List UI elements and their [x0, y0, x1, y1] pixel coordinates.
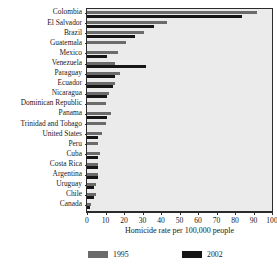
bar-2002 — [87, 156, 98, 159]
x-axis-title: Homicide rate per 100,000 people — [86, 226, 273, 235]
bar-group — [87, 49, 272, 59]
legend-label-1995: 1995 — [113, 250, 129, 259]
x-tick-mark — [180, 212, 181, 215]
plot-area — [86, 8, 273, 212]
bar-group — [87, 171, 272, 181]
bar-2002 — [87, 85, 113, 88]
category-label: Guatemala — [50, 39, 82, 47]
x-tick-mark — [217, 212, 218, 215]
x-tick-label: 100 — [262, 216, 277, 225]
x-tick-label: 20 — [114, 216, 134, 225]
bar-1995 — [87, 62, 115, 65]
category-label: Colombia — [53, 8, 82, 16]
bar-1995 — [87, 112, 111, 115]
bar-1995 — [87, 102, 106, 105]
x-tick-mark — [254, 212, 255, 215]
x-tick-label: 70 — [207, 216, 227, 225]
bar-1995 — [87, 163, 98, 166]
bar-group — [87, 29, 272, 39]
category-label: Venezuela — [52, 59, 82, 67]
bar-2002 — [87, 176, 98, 179]
bar-2002 — [87, 35, 135, 38]
x-tick-mark — [124, 212, 125, 215]
homicide-rate-bar-chart: ColombiaEl SalvadorBrazilGuatemalaMexico… — [0, 0, 277, 274]
chart-legend: 1995 2002 — [0, 250, 277, 266]
x-tick-label: 0 — [77, 216, 97, 225]
x-tick-mark — [272, 212, 273, 215]
bar-1995 — [87, 11, 257, 14]
category-label: Uruguay — [56, 180, 82, 188]
x-tick-label: 50 — [170, 216, 190, 225]
bar-1995 — [87, 183, 96, 186]
bar-1995 — [87, 82, 115, 85]
x-tick-mark — [198, 212, 199, 215]
bar-1995 — [87, 142, 98, 145]
bar-2002 — [87, 75, 115, 78]
category-label: Panama — [59, 109, 82, 117]
bar-group — [87, 110, 272, 120]
category-label: Cuba — [66, 150, 82, 158]
bar-1995 — [87, 72, 120, 75]
x-tick-mark — [143, 212, 144, 215]
x-tick-label: 60 — [188, 216, 208, 225]
legend-label-2002: 2002 — [207, 250, 223, 259]
category-label: Paraguay — [55, 69, 83, 77]
bar-group — [87, 161, 272, 171]
bar-group — [87, 100, 272, 110]
bar-group — [87, 70, 272, 80]
category-label: Dominican Republic — [21, 99, 82, 107]
bar-group — [87, 80, 272, 90]
category-label: Mexico — [59, 49, 82, 57]
x-tick-label: 30 — [133, 216, 153, 225]
bar-1995 — [87, 152, 100, 155]
bar-group — [87, 191, 272, 201]
category-label: Chile — [66, 190, 82, 198]
bar-1995 — [87, 203, 91, 206]
legend-swatch-2002 — [182, 251, 202, 258]
x-tick-mark — [106, 212, 107, 215]
bar-2002 — [87, 186, 94, 189]
category-label: Peru — [68, 140, 82, 148]
bar-2002 — [87, 116, 107, 119]
bar-1995 — [87, 31, 144, 34]
category-label: Costa Rica — [50, 160, 82, 168]
category-axis-labels: ColombiaEl SalvadorBrazilGuatemalaMexico… — [0, 8, 84, 212]
bar-2002 — [87, 95, 107, 98]
category-label: United States — [42, 130, 82, 138]
x-tick-mark — [87, 212, 88, 215]
bar-1995 — [87, 92, 109, 95]
bar-1995 — [87, 51, 118, 54]
category-label: Trinidad and Tobago — [21, 120, 82, 128]
bar-group — [87, 60, 272, 70]
legend-swatch-1995 — [88, 251, 108, 258]
bar-group — [87, 150, 272, 160]
bar-group — [87, 39, 272, 49]
bar-2002 — [87, 136, 98, 139]
bar-group — [87, 120, 272, 130]
bar-1995 — [87, 173, 98, 176]
bar-2002 — [87, 55, 107, 58]
bar-1995 — [87, 132, 102, 135]
bar-2002 — [87, 206, 90, 209]
bar-group — [87, 130, 272, 140]
x-tick-label: 80 — [225, 216, 245, 225]
category-label: Brazil — [64, 29, 82, 37]
legend-entry-1995: 1995 — [88, 250, 129, 259]
bar-group — [87, 19, 272, 29]
bar-1995 — [87, 193, 96, 196]
bar-group — [87, 201, 272, 211]
x-tick-label: 90 — [244, 216, 264, 225]
legend-entry-2002: 2002 — [182, 250, 223, 259]
bar-group — [87, 140, 272, 150]
bar-2002 — [87, 15, 242, 18]
bar-group — [87, 181, 272, 191]
category-label: Argentina — [53, 170, 82, 178]
category-label: Nicaragua — [52, 89, 82, 97]
bar-2002 — [87, 166, 98, 169]
x-tick-mark — [235, 212, 236, 215]
bar-1995 — [87, 122, 106, 125]
category-label: Ecuador — [57, 79, 82, 87]
category-label: El Salvador — [47, 19, 82, 27]
bar-rows — [87, 9, 272, 211]
x-tick-label: 10 — [96, 216, 116, 225]
